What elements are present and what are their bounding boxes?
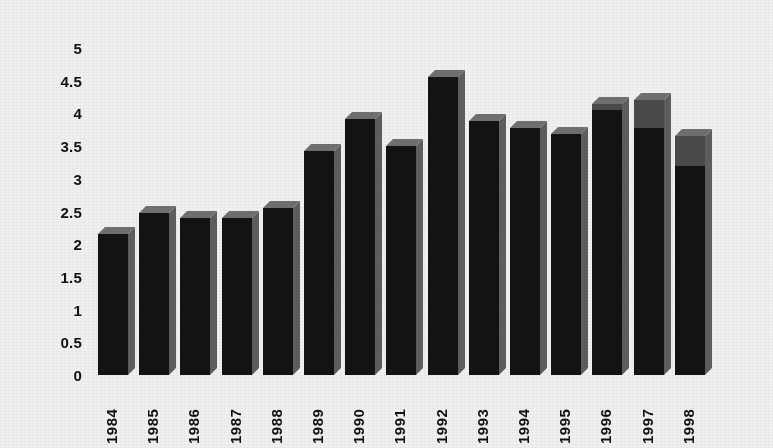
bar-1990: [345, 119, 375, 375]
bar-side-face: [375, 112, 382, 375]
bar-front-face: [345, 119, 375, 375]
bar-side-face: [416, 139, 423, 375]
y-tick-label: 4.5: [61, 73, 82, 88]
bar-1985: [139, 213, 169, 375]
x-tick-label-1985: 1985: [145, 382, 160, 444]
bar-side-face: [622, 97, 629, 375]
bar-front-face: [592, 104, 622, 375]
y-tick-label: 3: [73, 171, 82, 186]
bar-front-face: [98, 234, 128, 375]
y-axis: 54.543.532.521.510.50: [0, 0, 96, 448]
y-tick-label: 1: [73, 302, 82, 317]
bar-side-face: [499, 114, 506, 375]
bar-front-face: [510, 128, 540, 375]
bar-front-face: [263, 208, 293, 375]
bar-1988: [263, 208, 293, 375]
bar-side-face: [252, 211, 259, 375]
bar-side-face: [540, 121, 547, 375]
bar-front-face: [304, 151, 334, 375]
bar-1993: [469, 121, 499, 375]
bar-1989: [304, 151, 334, 375]
bar-1997: [634, 100, 664, 375]
x-tick-label-1986: 1986: [186, 382, 201, 444]
bar-front-face: [180, 218, 210, 375]
bar-1996: [592, 104, 622, 375]
bar-front-face: [675, 136, 705, 375]
bar-1992: [428, 77, 458, 375]
bar-front-face: [386, 146, 416, 375]
y-tick-label: 0: [73, 368, 82, 383]
bar-side-face: [128, 227, 135, 375]
bar-side-face: [210, 211, 217, 375]
x-tick-label-1996: 1996: [598, 382, 613, 444]
x-tick-label-1988: 1988: [269, 382, 284, 444]
bar-front-face: [551, 134, 581, 375]
y-tick-label: 5: [73, 41, 82, 56]
bar-side-face: [458, 70, 465, 375]
x-tick-label-1997: 1997: [640, 382, 655, 444]
bar-front-face: [634, 100, 664, 375]
y-tick-label: 2.5: [61, 204, 82, 219]
bar-1995: [551, 134, 581, 375]
bar-1991: [386, 146, 416, 375]
bar-upper-segment: [675, 136, 705, 165]
bar-side-face: [293, 201, 300, 375]
bar-side-face: [664, 93, 671, 375]
bar-chart: 54.543.532.521.510.50 198419851986198719…: [0, 0, 773, 448]
x-tick-label-1994: 1994: [516, 382, 531, 444]
x-tick-label-1998: 1998: [681, 382, 696, 444]
x-tick-label-1987: 1987: [228, 382, 243, 444]
bar-side-face: [169, 206, 176, 375]
x-tick-label-1984: 1984: [104, 382, 119, 444]
bar-1987: [222, 218, 252, 375]
bar-upper-segment: [592, 104, 622, 111]
x-tick-label-1990: 1990: [351, 382, 366, 444]
bar-front-face: [222, 218, 252, 375]
bar-side-face: [581, 127, 588, 375]
x-tick-label-1991: 1991: [392, 382, 407, 444]
bar-side-face: [334, 144, 341, 375]
y-tick-label: 0.5: [61, 335, 82, 350]
bar-1994: [510, 128, 540, 375]
bar-upper-segment: [634, 100, 664, 127]
y-tick-label: 2: [73, 237, 82, 252]
x-tick-label-1992: 1992: [434, 382, 449, 444]
x-tick-label-1993: 1993: [475, 382, 490, 444]
x-tick-label-1995: 1995: [557, 382, 572, 444]
y-tick-label: 4: [73, 106, 82, 121]
bar-front-face: [428, 77, 458, 375]
bar-front-face: [139, 213, 169, 375]
bar-1984: [98, 234, 128, 375]
bar-1998: [675, 136, 705, 375]
y-tick-label: 3.5: [61, 139, 82, 154]
plot-area: 1984198519861987198819891990199119921993…: [96, 0, 756, 448]
y-tick-label: 1.5: [61, 269, 82, 284]
bar-front-face: [469, 121, 499, 375]
bar-side-face: [705, 129, 712, 375]
bar-1986: [180, 218, 210, 375]
x-tick-label-1989: 1989: [310, 382, 325, 444]
